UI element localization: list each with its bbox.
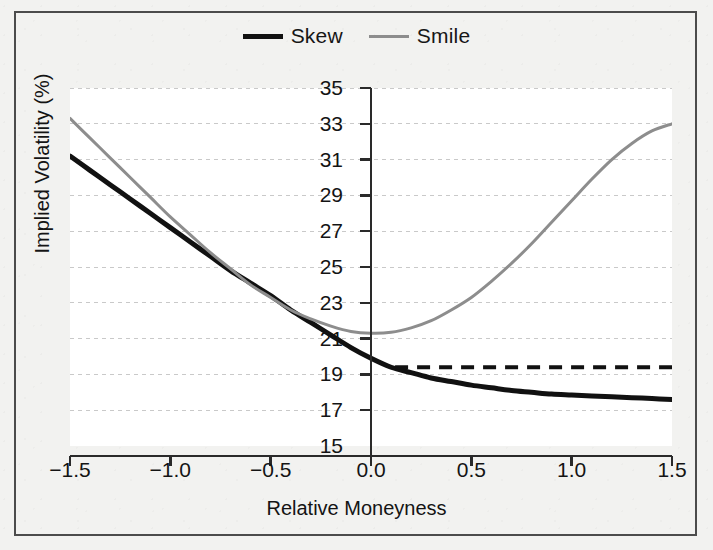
x-tick-label: −1.5 <box>30 458 110 482</box>
plot-panel <box>70 88 672 446</box>
gridlines <box>70 88 672 410</box>
legend-line-skew-icon <box>243 34 283 39</box>
figure-container: Skew Smile 3533312927252321191715 −1.5−1… <box>0 0 713 550</box>
legend-label-skew: Skew <box>291 24 343 48</box>
x-axis-title: Relative Moneyness <box>0 497 713 520</box>
y-axis-tick-labels: 3533312927252321191715 <box>297 88 343 446</box>
y-axis-title: Implied Volatility (%) <box>31 34 54 294</box>
y-tick-label: 25 <box>297 255 343 279</box>
chart-legend: Skew Smile <box>0 24 713 48</box>
legend-item-smile: Smile <box>369 24 471 48</box>
y-tick-label: 35 <box>297 76 343 100</box>
x-tick-label: 0.0 <box>331 458 411 482</box>
y-tick-label: 23 <box>297 291 343 315</box>
legend-item-skew: Skew <box>243 24 343 48</box>
x-tick-label: 0.5 <box>431 458 511 482</box>
y-tick-label: 31 <box>297 148 343 172</box>
plot-svg <box>70 88 672 446</box>
x-axis-tick-labels: −1.5−1.0−0.50.00.51.01.5 <box>70 458 672 488</box>
x-tick-label: 1.0 <box>532 458 612 482</box>
x-tick-label: −1.0 <box>130 458 210 482</box>
legend-line-smile-icon <box>369 35 409 38</box>
y-tick-label: 15 <box>297 434 343 458</box>
y-tick-label: 29 <box>297 183 343 207</box>
y-tick-label: 27 <box>297 219 343 243</box>
series-lines <box>70 118 672 399</box>
y-tick-label: 19 <box>297 362 343 386</box>
y-tick-label: 21 <box>297 327 343 351</box>
x-tick-label: 1.5 <box>632 458 712 482</box>
y-tick-label: 17 <box>297 398 343 422</box>
legend-label-smile: Smile <box>417 24 471 48</box>
x-tick-label: −0.5 <box>231 458 311 482</box>
y-tick-label: 33 <box>297 112 343 136</box>
